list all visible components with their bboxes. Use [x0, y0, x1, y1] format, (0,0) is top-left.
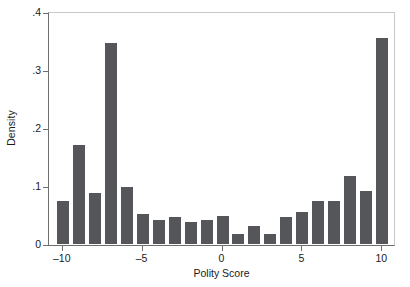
y-tick-label: .2	[32, 122, 41, 135]
histogram-bar	[376, 38, 388, 244]
x-tick-label: –5	[122, 252, 162, 265]
x-axis-title: Polity Score	[48, 267, 395, 280]
y-axis-title-text: Density	[5, 110, 17, 146]
x-tick-mark	[142, 246, 143, 251]
bar-series	[50, 14, 393, 244]
y-axis-title: Density	[0, 0, 22, 256]
histogram-bar	[185, 222, 197, 244]
histogram-bar	[328, 201, 340, 244]
histogram-bar	[264, 234, 276, 244]
histogram-bar	[121, 187, 133, 244]
histogram-bar	[232, 234, 244, 244]
histogram-bar	[248, 226, 260, 244]
x-tick-label: 10	[361, 252, 401, 265]
x-tick-label: –10	[42, 252, 82, 265]
y-axis: 0.1.2.3.4	[22, 0, 48, 287]
y-tick-label: 0	[35, 238, 41, 251]
x-tick-mark	[301, 246, 302, 251]
x-tick-mark	[222, 246, 223, 251]
plot-area	[48, 12, 395, 246]
histogram-bar	[89, 193, 101, 244]
histogram-bar	[201, 220, 213, 244]
histogram-bar	[153, 220, 165, 244]
histogram-bar	[312, 201, 324, 244]
y-tick-label: .3	[32, 64, 41, 77]
y-tick-label: .4	[32, 6, 41, 19]
histogram-bar	[57, 201, 69, 244]
histogram-bar	[169, 217, 181, 244]
histogram-bar	[296, 212, 308, 244]
histogram-bar	[280, 217, 292, 244]
histogram-bar	[105, 43, 117, 244]
histogram-bar	[137, 214, 149, 244]
x-tick-label: 5	[281, 252, 321, 265]
histogram-bar	[360, 191, 372, 244]
x-tick-mark	[381, 246, 382, 251]
histogram-bar	[73, 145, 85, 244]
histogram-bar	[217, 216, 229, 244]
x-tick-mark	[62, 246, 63, 251]
histogram-figure: Density 0.1.2.3.4 –10–50510 Polity Score	[0, 0, 410, 287]
histogram-bar	[344, 176, 356, 244]
x-axis: –10–50510	[48, 246, 395, 268]
x-tick-label: 0	[202, 252, 242, 265]
y-tick-label: .1	[32, 180, 41, 193]
